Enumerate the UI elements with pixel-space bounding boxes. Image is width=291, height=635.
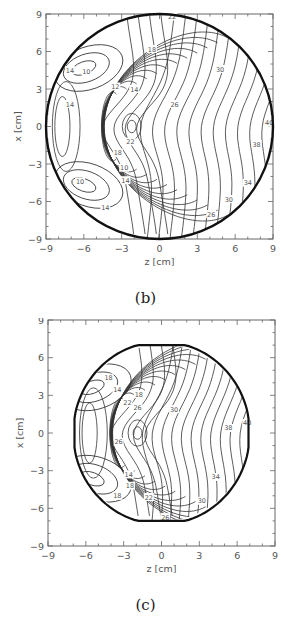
- contour-label: 14: [121, 177, 129, 185]
- contour-label: 18: [126, 482, 134, 490]
- x-tick-label: 3: [196, 550, 202, 561]
- contour-label: 18: [113, 492, 121, 500]
- x-tick-label: −9: [39, 243, 53, 254]
- chart-panel-c: −9−6−303699630−3−6−9z [cm]x [cm]18141822…: [0, 318, 291, 635]
- y-tick-label: 3: [36, 84, 42, 95]
- y-axis-label: x [cm]: [12, 111, 23, 142]
- contour-label: 18: [148, 46, 156, 54]
- contour-label: 14: [66, 67, 74, 75]
- contour-label: 10: [76, 178, 84, 186]
- x-tick-label: 3: [194, 243, 200, 254]
- y-tick-label: 6: [36, 46, 42, 57]
- y-tick-label: −9: [30, 541, 44, 552]
- x-tick-label: −3: [115, 243, 129, 254]
- contour-label: 38: [252, 141, 260, 149]
- contour-label: 14: [130, 86, 138, 94]
- contour-label: 22: [123, 399, 131, 407]
- contour-label: 30: [170, 406, 178, 414]
- contour-label: 30: [216, 66, 224, 74]
- contour-label: 12: [111, 83, 119, 91]
- contour-lines: [57, 333, 265, 534]
- x-tick-label: 9: [272, 550, 278, 561]
- contour-label: 22: [145, 494, 153, 502]
- contour-label: 26: [114, 438, 122, 446]
- contour-label: 40: [243, 419, 251, 427]
- y-tick-label: 0: [38, 428, 44, 439]
- x-axis-label: z [cm]: [147, 563, 177, 574]
- y-tick-label: −3: [30, 465, 44, 476]
- contour-label: 26: [207, 211, 215, 219]
- contour-label: 18: [104, 374, 112, 382]
- x-tick-label: −9: [41, 550, 55, 561]
- y-tick-label: 3: [38, 390, 44, 401]
- contour-label: 14: [66, 101, 74, 109]
- x-tick-label: −6: [79, 550, 93, 561]
- contour-label: 34: [212, 473, 220, 481]
- x-tick-label: −3: [117, 550, 131, 561]
- x-axis-label: z [cm]: [145, 256, 175, 267]
- y-tick-label: −6: [28, 196, 42, 207]
- y-tick-label: 0: [36, 121, 42, 132]
- y-axis-label: x [cm]: [14, 418, 25, 449]
- y-tick-label: 9: [38, 318, 44, 326]
- contour-label: 26: [170, 101, 178, 109]
- x-tick-label: 6: [234, 550, 240, 561]
- contour-label: 18: [114, 149, 122, 157]
- y-tick-label: 6: [38, 352, 44, 363]
- contour-label: 38: [224, 424, 232, 432]
- y-tick-label: −6: [30, 503, 44, 514]
- caption-b: (b): [0, 289, 291, 307]
- contour-label: 14: [101, 204, 109, 212]
- x-tick-label: 0: [156, 243, 162, 254]
- x-tick-label: 6: [232, 243, 238, 254]
- contour-label: 14: [113, 386, 121, 394]
- chart-panel-b: −9−6−303699630−3−6−9z [cm]x [cm]22181410…: [0, 0, 291, 320]
- y-tick-label: 9: [36, 9, 42, 20]
- y-tick-label: −3: [28, 159, 42, 170]
- y-tick-label: −9: [28, 234, 42, 245]
- contour-plot-b: −9−6−303699630−3−6−9z [cm]x [cm]22181410…: [0, 0, 291, 320]
- contour-label: 22: [126, 138, 134, 146]
- contour-plot-c: −9−6−303699630−3−6−9z [cm]x [cm]18141822…: [0, 318, 291, 635]
- caption-c: (c): [0, 596, 291, 614]
- contour-label: 10: [120, 164, 128, 172]
- contour-label: 30: [225, 196, 233, 204]
- x-tick-label: 0: [158, 550, 164, 561]
- contour-label: 30: [198, 497, 206, 505]
- contour-label: 14: [125, 471, 133, 479]
- contour-label: 34: [244, 179, 252, 187]
- contour-label: 26: [133, 404, 141, 412]
- x-tick-label: 9: [270, 243, 276, 254]
- x-tick-label: −6: [77, 243, 91, 254]
- contour-lines: [48, 2, 290, 252]
- contour-label: 10: [82, 68, 90, 76]
- contour-label: 18: [135, 391, 143, 399]
